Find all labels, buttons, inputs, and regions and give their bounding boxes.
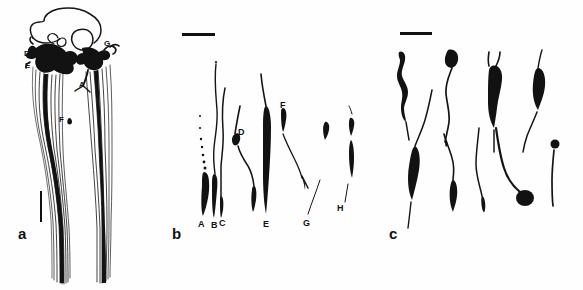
panel-letter-c: c <box>389 226 397 241</box>
neuron-c-8 <box>496 128 534 206</box>
neuron-b-A <box>199 115 209 216</box>
label-b-C: C <box>219 219 226 228</box>
ganglion-outline-lower <box>33 38 60 43</box>
panel-a-drawing <box>0 0 170 290</box>
neuron-b-F <box>281 108 308 190</box>
label-b-E: E <box>263 220 269 229</box>
neuron-b-G <box>308 122 329 214</box>
neuron-b-B <box>212 61 217 218</box>
panel-letter-b: b <box>172 226 181 241</box>
label-a-E: E <box>25 62 30 70</box>
cluster-inner-ring <box>57 38 66 46</box>
panel-a: a D E G A F <box>0 0 170 290</box>
neuron-c-4 <box>523 50 545 152</box>
label-b-G: G <box>303 219 310 228</box>
scalebar-panel-c <box>400 32 432 35</box>
neuron-b-E <box>261 74 271 214</box>
label-b-H: H <box>337 204 344 213</box>
neuron-b-C <box>220 88 225 218</box>
label-b-F: F <box>280 101 286 110</box>
neuron-b-H <box>345 106 354 202</box>
panel-b: b A B C D E F G H <box>170 0 370 290</box>
neuron-c-7 <box>476 128 485 212</box>
neuron-c-9 <box>551 140 560 207</box>
vesicle-loop <box>72 29 93 50</box>
neuron-c-5 <box>408 90 432 228</box>
scalebar-panel-a <box>40 191 42 222</box>
label-a-F: F <box>59 116 64 124</box>
f-marker-dot <box>67 118 72 124</box>
panel-b-drawing <box>170 0 370 290</box>
panel-letter-a: a <box>18 226 26 241</box>
axon-bundle-left <box>32 67 70 284</box>
label-a-D: D <box>24 50 30 58</box>
panel-c: c <box>370 0 583 290</box>
neuron-c-1 <box>397 51 409 140</box>
label-a-A: A <box>79 81 85 89</box>
figure-canvas: a D E G A F <box>0 0 583 290</box>
neuron-c-2 <box>445 50 458 147</box>
label-b-D: D <box>238 128 245 137</box>
neuron-b-D <box>232 106 256 212</box>
label-b-B: B <box>211 221 218 230</box>
scalebar-panel-b <box>182 33 215 36</box>
label-b-A: A <box>198 220 205 229</box>
label-a-G: G <box>104 40 110 48</box>
cell-cluster-left <box>31 44 78 75</box>
neuron-c-3 <box>488 52 502 152</box>
ganglion-outline <box>30 8 101 43</box>
panel-c-drawing <box>370 0 583 290</box>
